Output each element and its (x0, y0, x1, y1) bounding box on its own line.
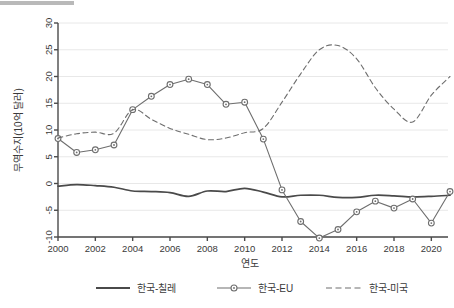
x-tick-label: 2006 (159, 243, 180, 254)
x-tick-label: 2016 (346, 243, 367, 254)
x-tick-label: 2004 (122, 243, 143, 254)
legend-label-2: 한국-미국 (369, 283, 408, 294)
series-line-2 (58, 45, 450, 140)
data-point-center (393, 207, 395, 209)
data-point-center (412, 198, 414, 200)
data-point-center (169, 84, 171, 86)
y-tick-label: 20 (43, 71, 54, 82)
x-tick-label: 2014 (309, 243, 330, 254)
data-point-center (356, 211, 358, 213)
y-tick-label: 25 (43, 44, 54, 55)
data-point-center (374, 200, 376, 202)
y-axis-title: 무역수지(10억 달러) (13, 88, 24, 172)
data-point-center (206, 84, 208, 86)
data-point-center (318, 237, 320, 239)
y-tick-label: 15 (43, 98, 54, 109)
data-point-center (188, 78, 190, 80)
data-point-center (262, 138, 264, 140)
data-series-group (55, 45, 453, 241)
x-axis-title: 연도 (241, 258, 259, 269)
data-point-center (94, 149, 96, 151)
data-point-center (76, 152, 78, 154)
legend-label-1: 한국-EU (258, 283, 293, 294)
data-point-center (244, 101, 246, 103)
y-tick-label: 10 (43, 125, 54, 136)
y-tick-label: 5 (43, 154, 54, 159)
data-point-center (150, 95, 152, 97)
data-point-center (337, 229, 339, 231)
x-axis: 2000200220042006200820102012201420162018… (47, 237, 448, 254)
chart-legend: 한국-칠레한국-EU한국-미국 (96, 283, 408, 294)
x-tick-label: 2018 (383, 243, 404, 254)
chart-figure: 302520151050-5-10 2000200220042006200820… (0, 0, 454, 308)
y-tick-label: -10 (43, 230, 54, 244)
legend-label-0: 한국-칠레 (137, 283, 176, 294)
x-tick-label: 2012 (271, 243, 292, 254)
legend-marker-center-1 (233, 287, 235, 289)
y-tick-label: 30 (43, 18, 54, 29)
data-point-center (300, 221, 302, 223)
figure-page: 302520151050-5-10 2000200220042006200820… (0, 0, 454, 308)
gridlines-group (58, 23, 448, 237)
data-point-center (281, 189, 283, 191)
data-point-center (430, 222, 432, 224)
y-axis: 302520151050-5-10 (43, 18, 58, 244)
line-chart: 302520151050-5-10 2000200220042006200820… (0, 0, 454, 308)
data-point-center (449, 191, 451, 193)
y-tick-label: 0 (43, 181, 54, 186)
x-tick-label: 2010 (234, 243, 255, 254)
x-tick-label: 2020 (421, 243, 442, 254)
x-tick-label: 2008 (197, 243, 218, 254)
x-tick-label: 2000 (47, 243, 68, 254)
x-tick-label: 2002 (85, 243, 106, 254)
data-point-center (225, 103, 227, 105)
data-point-center (113, 144, 115, 146)
y-tick-label: -5 (43, 206, 54, 214)
series-line-0 (58, 185, 450, 198)
